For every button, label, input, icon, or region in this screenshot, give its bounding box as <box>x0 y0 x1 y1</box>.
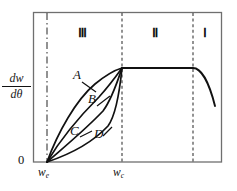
y-axis-label: dw dθ <box>2 72 31 102</box>
y-axis-label-numerator: dw <box>2 72 31 86</box>
x-tick-label-we: we <box>38 167 49 179</box>
region-label-two: Ⅱ <box>152 27 159 40</box>
region-label-three: Ⅲ <box>78 27 88 40</box>
curve-label-c: C <box>70 124 79 137</box>
curve-label-b: B <box>88 92 96 105</box>
region-label-one: Ⅰ <box>203 27 208 40</box>
x-tick-we-base: w <box>38 166 46 178</box>
curve-label-d: D <box>94 127 103 140</box>
chart-canvas <box>0 0 237 191</box>
y-axis-origin-label: 0 <box>18 154 24 167</box>
curve-label-a: A <box>73 68 81 81</box>
y-axis-label-denominator: dθ <box>2 86 31 101</box>
x-tick-label-wc: wc <box>113 167 124 179</box>
x-tick-we-subscript: e <box>46 171 49 180</box>
drying-rate-chart: dw dθ 0 we wc Ⅲ Ⅱ Ⅰ A B C D <box>0 0 237 191</box>
x-tick-wc-subscript: c <box>121 171 124 180</box>
x-tick-wc-base: w <box>113 166 121 178</box>
